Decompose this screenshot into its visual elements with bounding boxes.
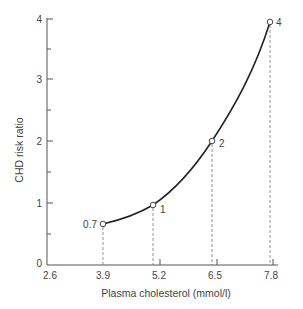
- x-tick-label: 7.8: [264, 270, 278, 281]
- x-ticks: [160, 259, 273, 265]
- x-axis-label: Plasma cholesterol (mmol/l): [101, 287, 231, 299]
- chart: 4 3 2 1 0 2.6 3.9 5.2 6.5 7.8 0.7 1 2: [0, 0, 303, 309]
- y-axis-label: CHD risk ratio: [13, 117, 25, 182]
- point-label: 4: [276, 17, 282, 28]
- y-ticks: [47, 19, 53, 234]
- y-tick-labels: 4 3 2 1 0: [36, 14, 42, 269]
- data-point: [150, 202, 156, 208]
- x-tick-label: 5.2: [152, 270, 166, 281]
- point-label: 0.7: [83, 219, 97, 230]
- y-tick-label: 1: [36, 198, 42, 209]
- data-point: [100, 221, 106, 227]
- data-point: [209, 138, 215, 144]
- drop-lines: [103, 25, 270, 265]
- point-labels: 0.7 1 2 4: [83, 17, 282, 230]
- x-tick-label: 6.5: [208, 270, 222, 281]
- x-tick-labels: 2.6 3.9 5.2 6.5 7.8: [43, 270, 278, 281]
- y-tick-label: 0: [36, 258, 42, 269]
- data-points: [100, 19, 273, 227]
- y-tick-label: 4: [36, 14, 42, 25]
- x-tick-label: 3.9: [96, 270, 110, 281]
- point-label: 1: [160, 204, 166, 215]
- point-label: 2: [219, 138, 225, 149]
- x-tick-label: 2.6: [43, 270, 57, 281]
- data-point: [267, 19, 273, 25]
- y-tick-label: 2: [36, 136, 42, 147]
- y-tick-label: 3: [36, 74, 42, 85]
- risk-curve: [103, 22, 270, 224]
